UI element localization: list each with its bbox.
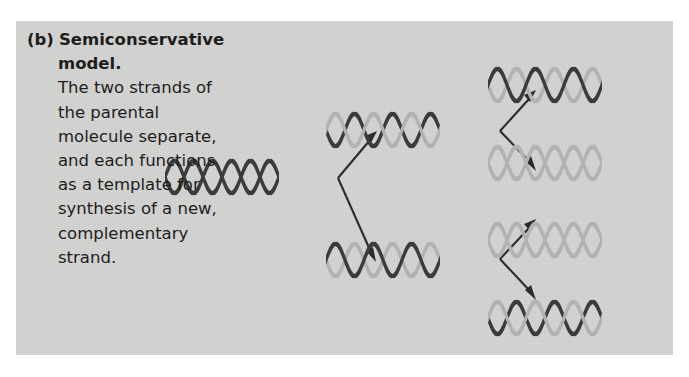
caption-heading: (b)Semiconservative model. [27,28,217,76]
dna-molecule-gen2-1 [488,67,602,103]
dna-molecule-gen1-bottom [326,242,440,278]
caption-heading-text: Semiconservative model. [58,30,224,73]
dna-strand-light [488,145,602,181]
caption-label: (b) [27,30,54,49]
caption-body-text: The two strands of the parental molecule… [27,76,217,270]
dna-molecule-gen2-4 [488,300,602,336]
figure-root: (b)Semiconservative model. The two stran… [0,0,689,377]
dna-molecule-gen1-top [326,112,440,148]
figure-caption: (b)Semiconservative model. The two stran… [27,28,217,270]
arrow-gen1-bottom-to-gen2-4 [500,259,536,300]
arrow-parent-to-gen1-top [338,131,377,178]
dna-strand-light [326,112,440,148]
dna-molecule-gen2-2 [488,145,602,181]
helix-layer [165,67,602,336]
dna-strand-dark [488,67,602,103]
dna-strand-dark [326,242,440,278]
dna-strand-light [488,300,602,336]
